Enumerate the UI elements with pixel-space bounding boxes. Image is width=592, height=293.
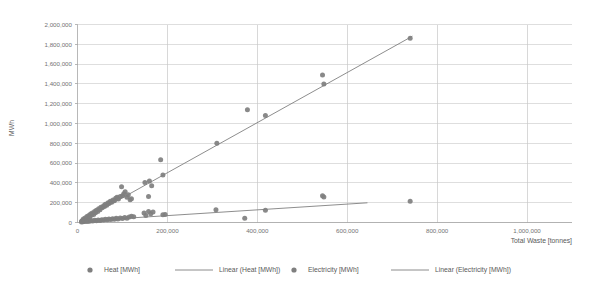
y-axis-title: MWh: [8, 120, 15, 136]
data-point: [213, 207, 218, 212]
x-tick-label: 800,000: [426, 227, 449, 234]
data-point: [151, 210, 156, 215]
legend-label: Electricity [MWh]: [308, 266, 359, 274]
data-point: [131, 214, 136, 219]
data-point: [214, 141, 219, 146]
data-point: [321, 81, 326, 86]
data-point: [147, 179, 152, 184]
data-point: [119, 184, 124, 189]
legend-label: Linear (Heat [MWh]): [219, 266, 280, 274]
y-tick-label: 0: [69, 219, 73, 226]
x-tick-label: 200,000: [156, 227, 179, 234]
data-point: [160, 212, 165, 217]
data-point: [129, 196, 134, 201]
y-tick-label: 1,000,000: [44, 120, 72, 127]
data-point: [160, 172, 165, 177]
scatter-chart: 0200,000400,000600,000800,0001,000,0001,…: [0, 0, 592, 293]
x-tick-label: 600,000: [336, 227, 359, 234]
y-tick-label: 200,000: [50, 199, 73, 206]
data-point: [143, 213, 148, 218]
legend-label: Heat [MWh]: [104, 266, 140, 274]
data-point: [149, 183, 154, 188]
x-axis-title: Total Waste [tonnes]: [511, 237, 572, 245]
data-point: [408, 199, 413, 204]
data-point: [245, 107, 250, 112]
data-point: [126, 192, 131, 197]
data-point: [408, 36, 413, 41]
data-point: [263, 113, 268, 118]
y-tick-label: 1,200,000: [44, 100, 72, 107]
legend-marker-electricity: [291, 267, 296, 272]
y-tick-label: 800,000: [50, 140, 73, 147]
data-point: [320, 72, 325, 77]
y-tick-label: 1,400,000: [44, 80, 72, 87]
data-point: [321, 194, 326, 199]
data-point: [142, 180, 147, 185]
data-point: [158, 157, 163, 162]
y-tick-label: 2,000,000: [44, 21, 72, 28]
y-tick-label: 1,800,000: [44, 41, 72, 48]
x-tick-label: 0: [76, 227, 80, 234]
x-tick-label: 1,000,000: [513, 227, 541, 234]
x-tick-label: 400,000: [246, 227, 269, 234]
legend-label: Linear (Electricity [MWh]): [435, 266, 511, 274]
chart-canvas: 0200,000400,000600,000800,0001,000,0001,…: [0, 0, 592, 293]
data-point: [263, 208, 268, 213]
data-point: [242, 216, 247, 221]
y-tick-label: 400,000: [50, 179, 73, 186]
legend-marker-heat: [87, 267, 92, 272]
y-tick-label: 1,600,000: [44, 60, 72, 67]
data-point: [146, 194, 151, 199]
y-tick-label: 600,000: [50, 159, 73, 166]
